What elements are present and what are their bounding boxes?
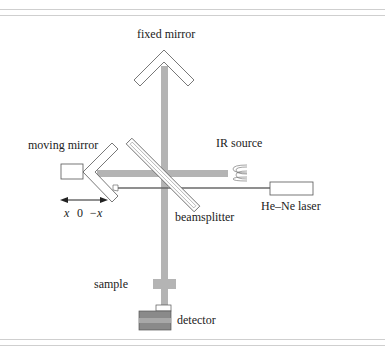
detector-label: detector <box>177 313 216 327</box>
displacement-arrow <box>60 197 108 203</box>
axis-x-label: x <box>64 206 69 220</box>
interferometer-diagram <box>0 0 385 357</box>
ir-beam-vertical <box>161 66 168 306</box>
axis-neg-x-label: −x <box>89 206 102 220</box>
fixed-mirror-label: fixed mirror <box>137 27 195 41</box>
laser-reflector <box>113 185 118 191</box>
he-ne-laser <box>270 182 313 195</box>
sample-block <box>153 279 176 289</box>
ir-source-label: IR source <box>216 136 262 150</box>
axis-zero-label: 0 <box>77 206 83 220</box>
detector-window <box>156 305 171 311</box>
moving-mirror-actuator <box>61 164 83 179</box>
beamsplitter-label: beamsplitter <box>175 210 234 224</box>
moving-mirror-label: moving mirror <box>28 138 98 152</box>
he-ne-laser-label: He–Ne laser <box>261 199 321 213</box>
ir-source-icon <box>233 165 247 181</box>
detector-band <box>139 318 171 323</box>
sample-label: sample <box>94 277 128 291</box>
